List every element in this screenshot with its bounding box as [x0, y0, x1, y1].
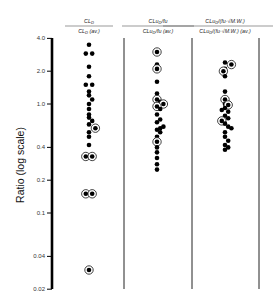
data-point	[87, 42, 92, 47]
column-header-denominator: CLuD/(fu·√M.W.) (av.)	[199, 28, 251, 35]
data-point	[87, 143, 92, 148]
column-headers: CLDCLD (av.)CLuD/fuCLuD/fu (av.)CLuD/(fu…	[65, 18, 273, 35]
data-point-circled	[93, 126, 98, 131]
data-point-circled	[155, 67, 160, 72]
data-point	[226, 138, 231, 143]
data-point	[223, 89, 228, 94]
data-point	[155, 145, 160, 150]
data-point	[87, 74, 92, 79]
data-point-circled	[84, 192, 89, 197]
y-tick-label: 4.0	[37, 35, 46, 41]
data-point	[226, 116, 231, 121]
data-point-circled	[84, 154, 89, 159]
data-point	[155, 150, 160, 155]
data-point	[226, 109, 231, 114]
data-point-circled	[90, 154, 95, 159]
data-point	[87, 135, 92, 140]
data-point	[155, 112, 160, 117]
column-header-denominator: CLuD/fu (av.)	[143, 28, 174, 35]
data-point	[90, 51, 95, 56]
data-point	[90, 97, 95, 102]
y-tick-label: 0.04	[33, 253, 45, 259]
data-point	[158, 107, 163, 112]
data-point	[84, 51, 89, 56]
data-point	[223, 135, 228, 140]
y-tick-label: 0.2	[37, 177, 46, 183]
data-point	[155, 120, 160, 125]
column-header-denominator: CLD (av.)	[78, 28, 100, 35]
column-header-numerator: CLuD/fu	[149, 18, 168, 25]
data-point	[87, 93, 92, 98]
ratio-dot-plot: Ratio (log scale) 4.02.01.00.40.20.10.04…	[0, 0, 273, 305]
data-point-circled	[90, 192, 95, 197]
y-tick-label: 0.4	[37, 144, 46, 150]
y-tick-label: 1.0	[37, 101, 46, 107]
data-point	[155, 167, 160, 172]
data-point	[84, 83, 89, 88]
data-point	[223, 74, 228, 79]
data-point-circled	[87, 268, 92, 273]
data-point	[87, 107, 92, 112]
data-point-circled	[155, 50, 160, 55]
column-separators	[124, 38, 259, 289]
data-point	[158, 130, 163, 135]
data-points	[82, 42, 236, 274]
data-point	[223, 60, 228, 65]
column-header-numerator: CLD	[84, 18, 94, 25]
y-tick-label: 0.1	[37, 210, 46, 216]
data-point	[87, 122, 92, 127]
column-header-numerator: CLuD/(fu·√M.W.)	[205, 18, 245, 25]
data-point-circled	[161, 102, 166, 107]
data-point	[223, 130, 228, 135]
y-tick-label: 0.02	[33, 286, 45, 292]
data-point	[155, 162, 160, 167]
data-point	[90, 83, 95, 88]
data-point	[220, 108, 225, 113]
data-point	[155, 156, 160, 161]
data-point	[87, 64, 92, 69]
data-point	[87, 102, 92, 107]
data-point-circled	[221, 69, 226, 74]
y-tick-label: 2.0	[37, 68, 46, 74]
data-point-circled	[229, 62, 234, 67]
data-point	[90, 119, 95, 124]
data-point	[87, 130, 92, 135]
data-point	[155, 79, 160, 84]
y-ticks: 4.02.01.00.40.20.10.040.02	[33, 35, 52, 292]
data-point	[223, 148, 228, 153]
data-point-circled	[155, 139, 160, 144]
data-point	[229, 126, 234, 131]
y-axis-label: Ratio (log scale)	[14, 127, 26, 203]
